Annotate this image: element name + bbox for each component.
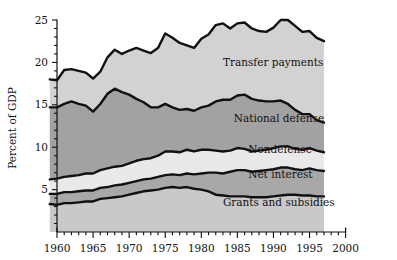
chart-container: 5101520251960196519701975198019851990199… bbox=[0, 0, 397, 260]
y-axis-tick-label: 15 bbox=[35, 98, 48, 110]
series-label-national-defense: National defense bbox=[234, 112, 324, 124]
series-label-net-interest: Net interest bbox=[248, 168, 313, 180]
x-axis-tick-label: 1960 bbox=[44, 242, 71, 254]
x-axis-tick-label: 1965 bbox=[80, 242, 107, 254]
y-axis-tick-label: 25 bbox=[35, 14, 48, 26]
y-axis-title: Percent of GDP bbox=[6, 87, 18, 169]
y-axis-tick-label: 10 bbox=[35, 141, 48, 153]
y-axis-tick-label: 20 bbox=[35, 56, 48, 68]
x-axis-tick-label: 1970 bbox=[116, 242, 143, 254]
x-axis-tick-label: 1995 bbox=[296, 242, 323, 254]
x-axis-tick-label: 1985 bbox=[224, 242, 251, 254]
series-label-transfer-payments: Transfer payments bbox=[223, 56, 323, 68]
x-axis-tick-label: 1975 bbox=[152, 242, 179, 254]
stacked-area-chart: 5101520251960196519701975198019851990199… bbox=[0, 0, 397, 260]
x-axis-tick-label: 1990 bbox=[260, 242, 287, 254]
series-label-grants-and-subsidies: Grants and subsidies bbox=[223, 196, 335, 208]
x-axis-tick-label: 1980 bbox=[188, 242, 215, 254]
y-axis-tick-label: 5 bbox=[41, 183, 48, 195]
series-label-nondefense: Nondefense bbox=[248, 143, 312, 155]
x-axis-tick-label: 2000 bbox=[332, 242, 359, 254]
